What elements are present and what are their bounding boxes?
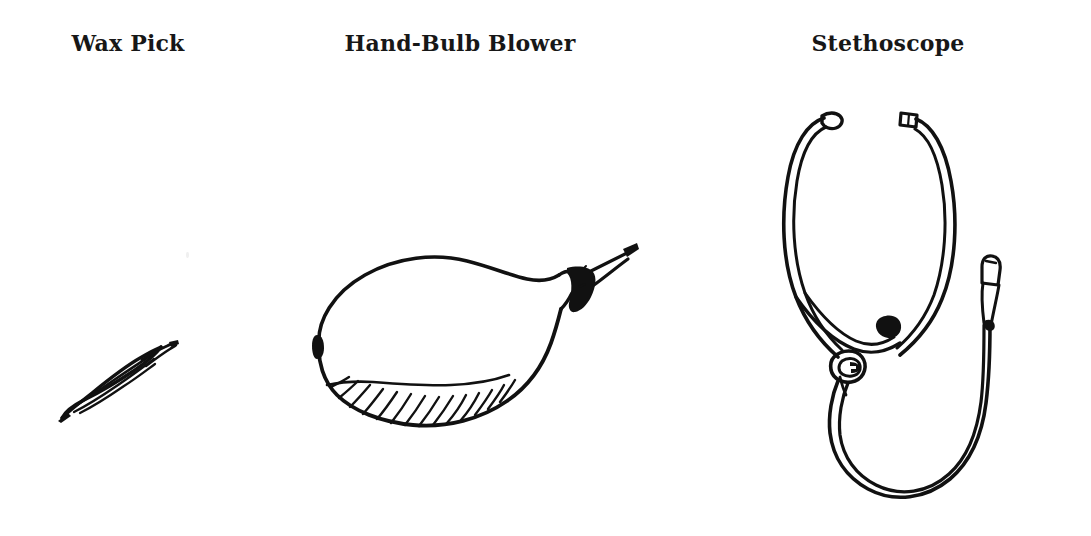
hand-bulb-blower-drawing xyxy=(295,235,655,440)
figure-caption-stethoscope: Stethoscope xyxy=(788,30,988,56)
scan-artifact-speck xyxy=(186,252,189,258)
wax-pick-drawing xyxy=(40,320,200,430)
stethoscope-drawing xyxy=(770,85,1040,515)
illustration-plate: Wax Pick Hand-Bulb Blower xyxy=(0,0,1091,536)
figure-caption-hand-bulb: Hand-Bulb Blower xyxy=(330,30,590,56)
hand-bulb-body xyxy=(312,243,639,426)
stethoscope-body xyxy=(784,113,1000,497)
figure-caption-wax-pick: Wax Pick xyxy=(28,30,228,56)
wax-pick-body xyxy=(58,340,179,423)
